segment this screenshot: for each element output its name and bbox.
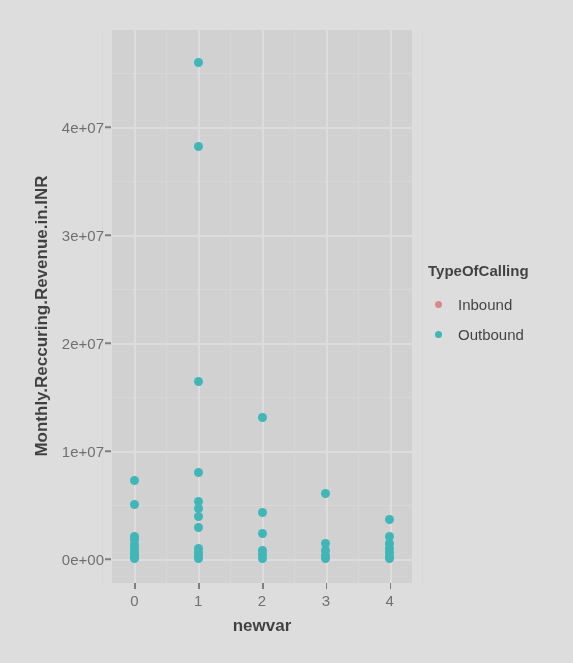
y-axis-tick-label: 3e+07 [18, 227, 104, 244]
scatter-plot-figure: 0e+001e+072e+073e+074e+07 Monthly.Reccur… [0, 0, 573, 663]
y-axis-tick-mark [105, 558, 111, 560]
y-axis-tick-label: 1e+07 [18, 443, 104, 460]
y-axis-tick-mark [105, 450, 111, 452]
legend-key-dot-icon [428, 294, 448, 314]
legend-title: TypeOfCalling [428, 262, 568, 279]
x-axis-tick-mark [390, 583, 392, 589]
x-axis-tick-label: 0 [114, 592, 154, 609]
y-axis-tick-label: 0e+00 [18, 551, 104, 568]
legend-key-dot-icon [428, 324, 448, 344]
x-axis-tick-mark [198, 583, 200, 589]
legend-entries: InboundOutbound [428, 291, 568, 347]
data-point [194, 523, 203, 532]
data-point [194, 377, 203, 386]
data-point [194, 142, 203, 151]
data-point [194, 512, 203, 521]
x-axis-tick-mark [134, 583, 136, 589]
data-point [194, 468, 203, 477]
gridline-minor-vertical [358, 30, 359, 583]
y-axis-tick-label: 4e+07 [18, 119, 104, 136]
data-point [258, 529, 267, 538]
y-axis-tick-label: 2e+07 [18, 335, 104, 352]
y-axis-tick-mark [105, 126, 111, 128]
gridline-major-vertical [390, 30, 392, 583]
data-point [130, 476, 139, 485]
gridline-minor-vertical [230, 30, 231, 583]
data-point [385, 554, 394, 563]
gridline-major-vertical [262, 30, 264, 583]
x-axis-tick-mark [326, 583, 328, 589]
y-axis-tick-labels: 0e+001e+072e+073e+074e+07 [12, 0, 104, 663]
data-point [321, 489, 330, 498]
data-point [130, 500, 139, 509]
legend: TypeOfCalling InboundOutbound [428, 262, 568, 351]
data-point [194, 58, 203, 67]
gridline-minor-vertical [166, 30, 167, 583]
legend-dot [435, 301, 442, 308]
x-axis-tick-label: 1 [178, 592, 218, 609]
x-axis-tick-mark [262, 583, 264, 589]
legend-item-inbound[interactable]: Inbound [428, 291, 568, 317]
data-point [258, 554, 267, 563]
data-point [194, 554, 203, 563]
legend-item-label: Outbound [458, 326, 524, 343]
data-point [130, 554, 139, 563]
data-point [258, 413, 267, 422]
legend-item-outbound[interactable]: Outbound [428, 321, 568, 347]
gridline-minor-vertical [294, 30, 295, 583]
x-axis-tick-label: 2 [242, 592, 282, 609]
legend-item-label: Inbound [458, 296, 512, 313]
data-point [385, 515, 394, 524]
x-axis-tick-label: 4 [370, 592, 410, 609]
data-point [321, 554, 330, 563]
y-axis-tick-mark [105, 342, 111, 344]
x-axis-title: newvar [112, 616, 412, 636]
gridline-minor-vertical [422, 30, 423, 583]
y-axis-tick-mark [105, 234, 111, 236]
plot-panel [112, 30, 412, 583]
gridline-major-vertical [326, 30, 328, 583]
legend-dot [435, 331, 442, 338]
data-point [258, 508, 267, 517]
y-axis-title: Monthly.Reccuring.Revenue.in.INR [32, 66, 52, 566]
x-axis-tick-label: 3 [306, 592, 346, 609]
